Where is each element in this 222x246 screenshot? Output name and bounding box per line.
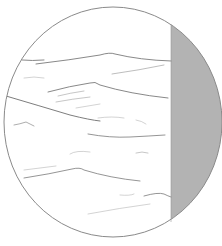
wave-line: [136, 120, 146, 124]
wave-line: [22, 60, 44, 61]
wave-line: [136, 152, 148, 153]
wave-line: [24, 77, 44, 78]
wave-line: [112, 65, 164, 74]
wave-line: [88, 134, 165, 137]
wave-line: [98, 117, 124, 118]
wave-line: [58, 91, 84, 96]
wave-lines: [6, 53, 171, 214]
wave-line: [24, 168, 140, 181]
wave-line: [36, 53, 171, 64]
wave-line: [48, 82, 168, 98]
wave-line: [70, 151, 90, 154]
wave-line: [6, 96, 100, 121]
shadow-fill: [171, 0, 222, 246]
waves-circle-illustration: [0, 0, 222, 246]
shadow-region: [171, 0, 222, 246]
wave-line: [14, 122, 34, 126]
wave-line: [56, 97, 90, 102]
wave-line: [24, 166, 56, 170]
wave-line: [88, 204, 150, 214]
wave-line: [120, 194, 134, 195]
wave-line: [144, 193, 171, 197]
wave-line: [76, 104, 100, 108]
